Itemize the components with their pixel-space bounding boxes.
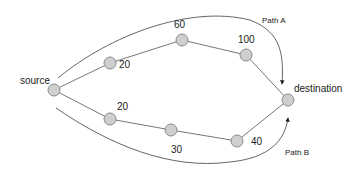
node-bot3 [231, 135, 243, 147]
label-destination: destination [294, 83, 342, 94]
label-top2: 60 [174, 19, 186, 30]
node-top3 [240, 49, 252, 61]
network-path-diagram: source destination 20 60 100 20 30 40 Pa… [0, 0, 357, 173]
edge-source-top1 [54, 63, 110, 90]
label-top1: 20 [119, 59, 131, 70]
edge-bot1-bot2 [110, 119, 171, 130]
edge-source-bot1 [54, 90, 110, 119]
node-top1 [104, 57, 116, 69]
edge-bot3-destination [237, 100, 288, 141]
label-source: source [20, 75, 50, 86]
edge-bot2-bot3 [171, 130, 237, 141]
label-bot1: 20 [117, 101, 129, 112]
label-top3: 100 [238, 34, 255, 45]
label-bot2: 30 [171, 144, 183, 155]
label-path-b: Path B [285, 148, 309, 157]
node-bot2 [165, 124, 177, 136]
edge-top2-top3 [182, 40, 246, 55]
label-bot3: 40 [251, 136, 263, 147]
node-bot1 [104, 113, 116, 125]
node-destination [282, 94, 294, 106]
node-top2 [176, 34, 188, 46]
label-path-a: Path A [262, 16, 286, 25]
